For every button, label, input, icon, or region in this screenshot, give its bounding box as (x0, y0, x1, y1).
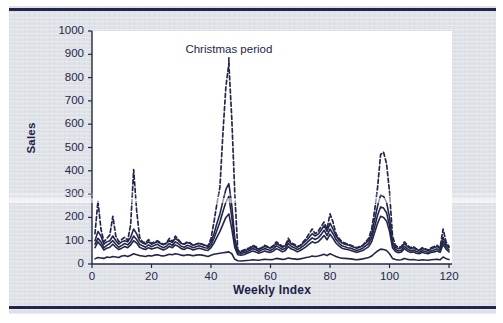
y-tick-label: 900 (40, 47, 84, 59)
y-tick-label: 200 (40, 210, 84, 222)
series-line-2 (95, 184, 449, 253)
x-tick-label: 100 (370, 270, 410, 282)
x-axis-label: Weekly Index (92, 283, 452, 297)
x-tick-label: 60 (251, 270, 291, 282)
series-group (95, 64, 449, 261)
x-tick-label: 120 (429, 270, 469, 282)
y-tick-label: 300 (40, 187, 84, 199)
x-tick-label: 20 (132, 270, 172, 282)
y-axis-label: Sales (25, 103, 37, 173)
axes-group (88, 31, 452, 268)
y-tick-label: 700 (40, 94, 84, 106)
y-tick-label: 500 (40, 141, 84, 153)
y-tick-label: 400 (40, 164, 84, 176)
x-tick-label: 80 (310, 270, 350, 282)
chart-annotation-christmas: Christmas period (149, 43, 309, 55)
y-tick-label: 0 (40, 257, 84, 269)
y-tick-label: 600 (40, 117, 84, 129)
x-tick-label: 0 (72, 270, 112, 282)
y-tick-label: 1000 (40, 24, 84, 36)
x-tick-label: 40 (191, 270, 231, 282)
y-tick-label: 100 (40, 234, 84, 246)
series-line-1 (95, 64, 449, 252)
figure-container: Sales Weekly Index Christmas period 0100… (0, 0, 503, 323)
y-tick-label: 800 (40, 71, 84, 83)
